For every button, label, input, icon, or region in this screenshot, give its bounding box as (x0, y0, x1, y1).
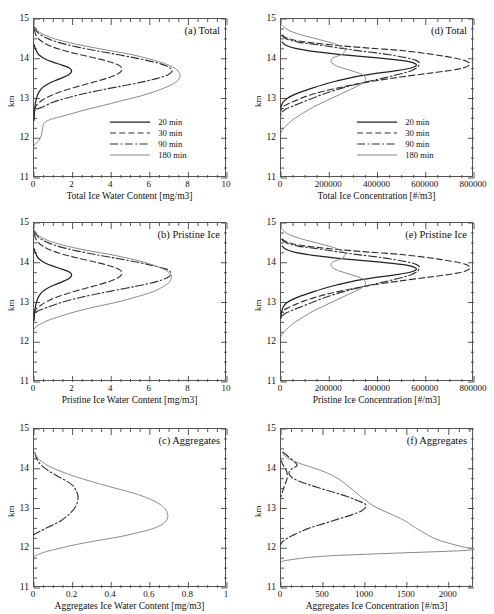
y-tick-label: 15 (260, 423, 276, 433)
x-axis-label-f: Aggregates Ice Concentration [#/m3] (280, 601, 473, 611)
plot-canvas-f (281, 429, 474, 588)
panel-f: (f) Aggregates11121314150500100015002000… (0, 0, 494, 614)
panel-title-f: (f) Aggregates (407, 435, 467, 446)
curve-f-90-min (281, 452, 366, 544)
y-axis-label-f: km (253, 505, 263, 517)
x-tick-label: 2000 (439, 589, 457, 599)
y-tick-label: 11 (260, 582, 276, 592)
y-tick-label: 12 (260, 542, 276, 552)
x-tick-label: 500 (315, 589, 329, 599)
curve-f-180-min (282, 453, 474, 562)
x-tick-label: 1000 (355, 589, 373, 599)
plot-area-f (280, 428, 473, 587)
y-tick-label: 14 (260, 463, 276, 473)
figure-ice-profiles: (a) Total11121314150246810kmTotal Ice Wa… (0, 0, 494, 614)
x-tick-label: 0 (278, 589, 283, 599)
x-tick-label: 1500 (397, 589, 415, 599)
